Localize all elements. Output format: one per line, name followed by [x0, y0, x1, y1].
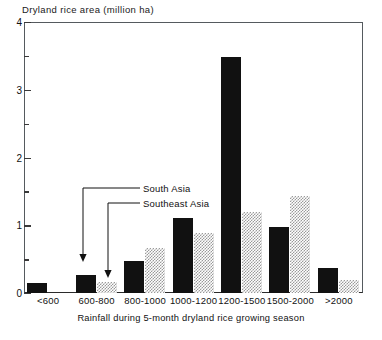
y-tick-label: 0: [2, 288, 22, 299]
x-tick-label: >2000: [325, 295, 353, 306]
chart-title: Dryland rice area (million ha): [22, 4, 154, 15]
y-tick-label: 2: [2, 152, 22, 163]
bar-southeast-asia: [194, 233, 214, 293]
bar-south-asia: [27, 283, 47, 293]
bar-southeast-asia: [242, 212, 262, 293]
bar-south-asia: [173, 218, 193, 293]
x-tick-label: <600: [37, 295, 59, 306]
x-tick-label: 600-800: [79, 295, 115, 306]
x-tick-label: 1500-2000: [267, 295, 314, 306]
bar-southeast-asia: [339, 280, 359, 293]
bar-south-asia: [76, 275, 96, 293]
y-tick-label: 4: [2, 17, 22, 28]
bar-southeast-asia: [97, 282, 117, 293]
x-axis-tick-labels: <600600-800800-10001000-12001200-1500150…: [24, 295, 363, 311]
bars-layer: [24, 22, 363, 293]
y-axis-labels: 01234: [0, 0, 22, 340]
bar-south-asia: [124, 261, 144, 293]
bar-south-asia: [221, 57, 241, 293]
x-axis-title: Rainfall during 5-month dryland rice gro…: [0, 313, 382, 323]
dryland-rice-area-bar-chart: Dryland rice area (million ha) 01234 <60…: [0, 0, 382, 340]
bar-south-asia: [318, 268, 338, 293]
y-tick-label: 1: [2, 220, 22, 231]
bar-southeast-asia: [145, 248, 165, 293]
x-tick-label: 800-1000: [124, 295, 166, 306]
y-tick-label: 3: [2, 84, 22, 95]
bar-southeast-asia: [290, 196, 310, 293]
bar-south-asia: [269, 227, 289, 293]
x-tick-label: 1200-1500: [218, 295, 265, 306]
x-tick-label: 1000-1200: [170, 295, 217, 306]
